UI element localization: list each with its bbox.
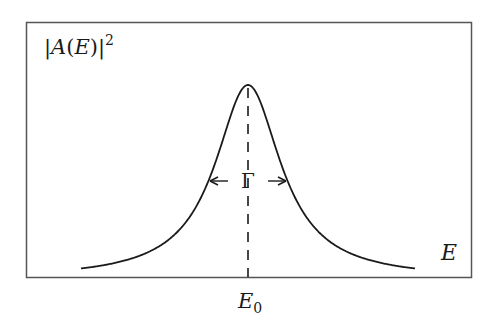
center-energy-label: E0 <box>237 289 262 316</box>
plot-frame <box>27 23 472 278</box>
x-axis-label: E <box>440 240 457 265</box>
gamma-label: Γ <box>241 169 255 193</box>
resonance-diagram: Γ |A(E)|2 E E0 <box>0 0 499 330</box>
y-axis-label: |A(E)|2 <box>44 32 114 60</box>
